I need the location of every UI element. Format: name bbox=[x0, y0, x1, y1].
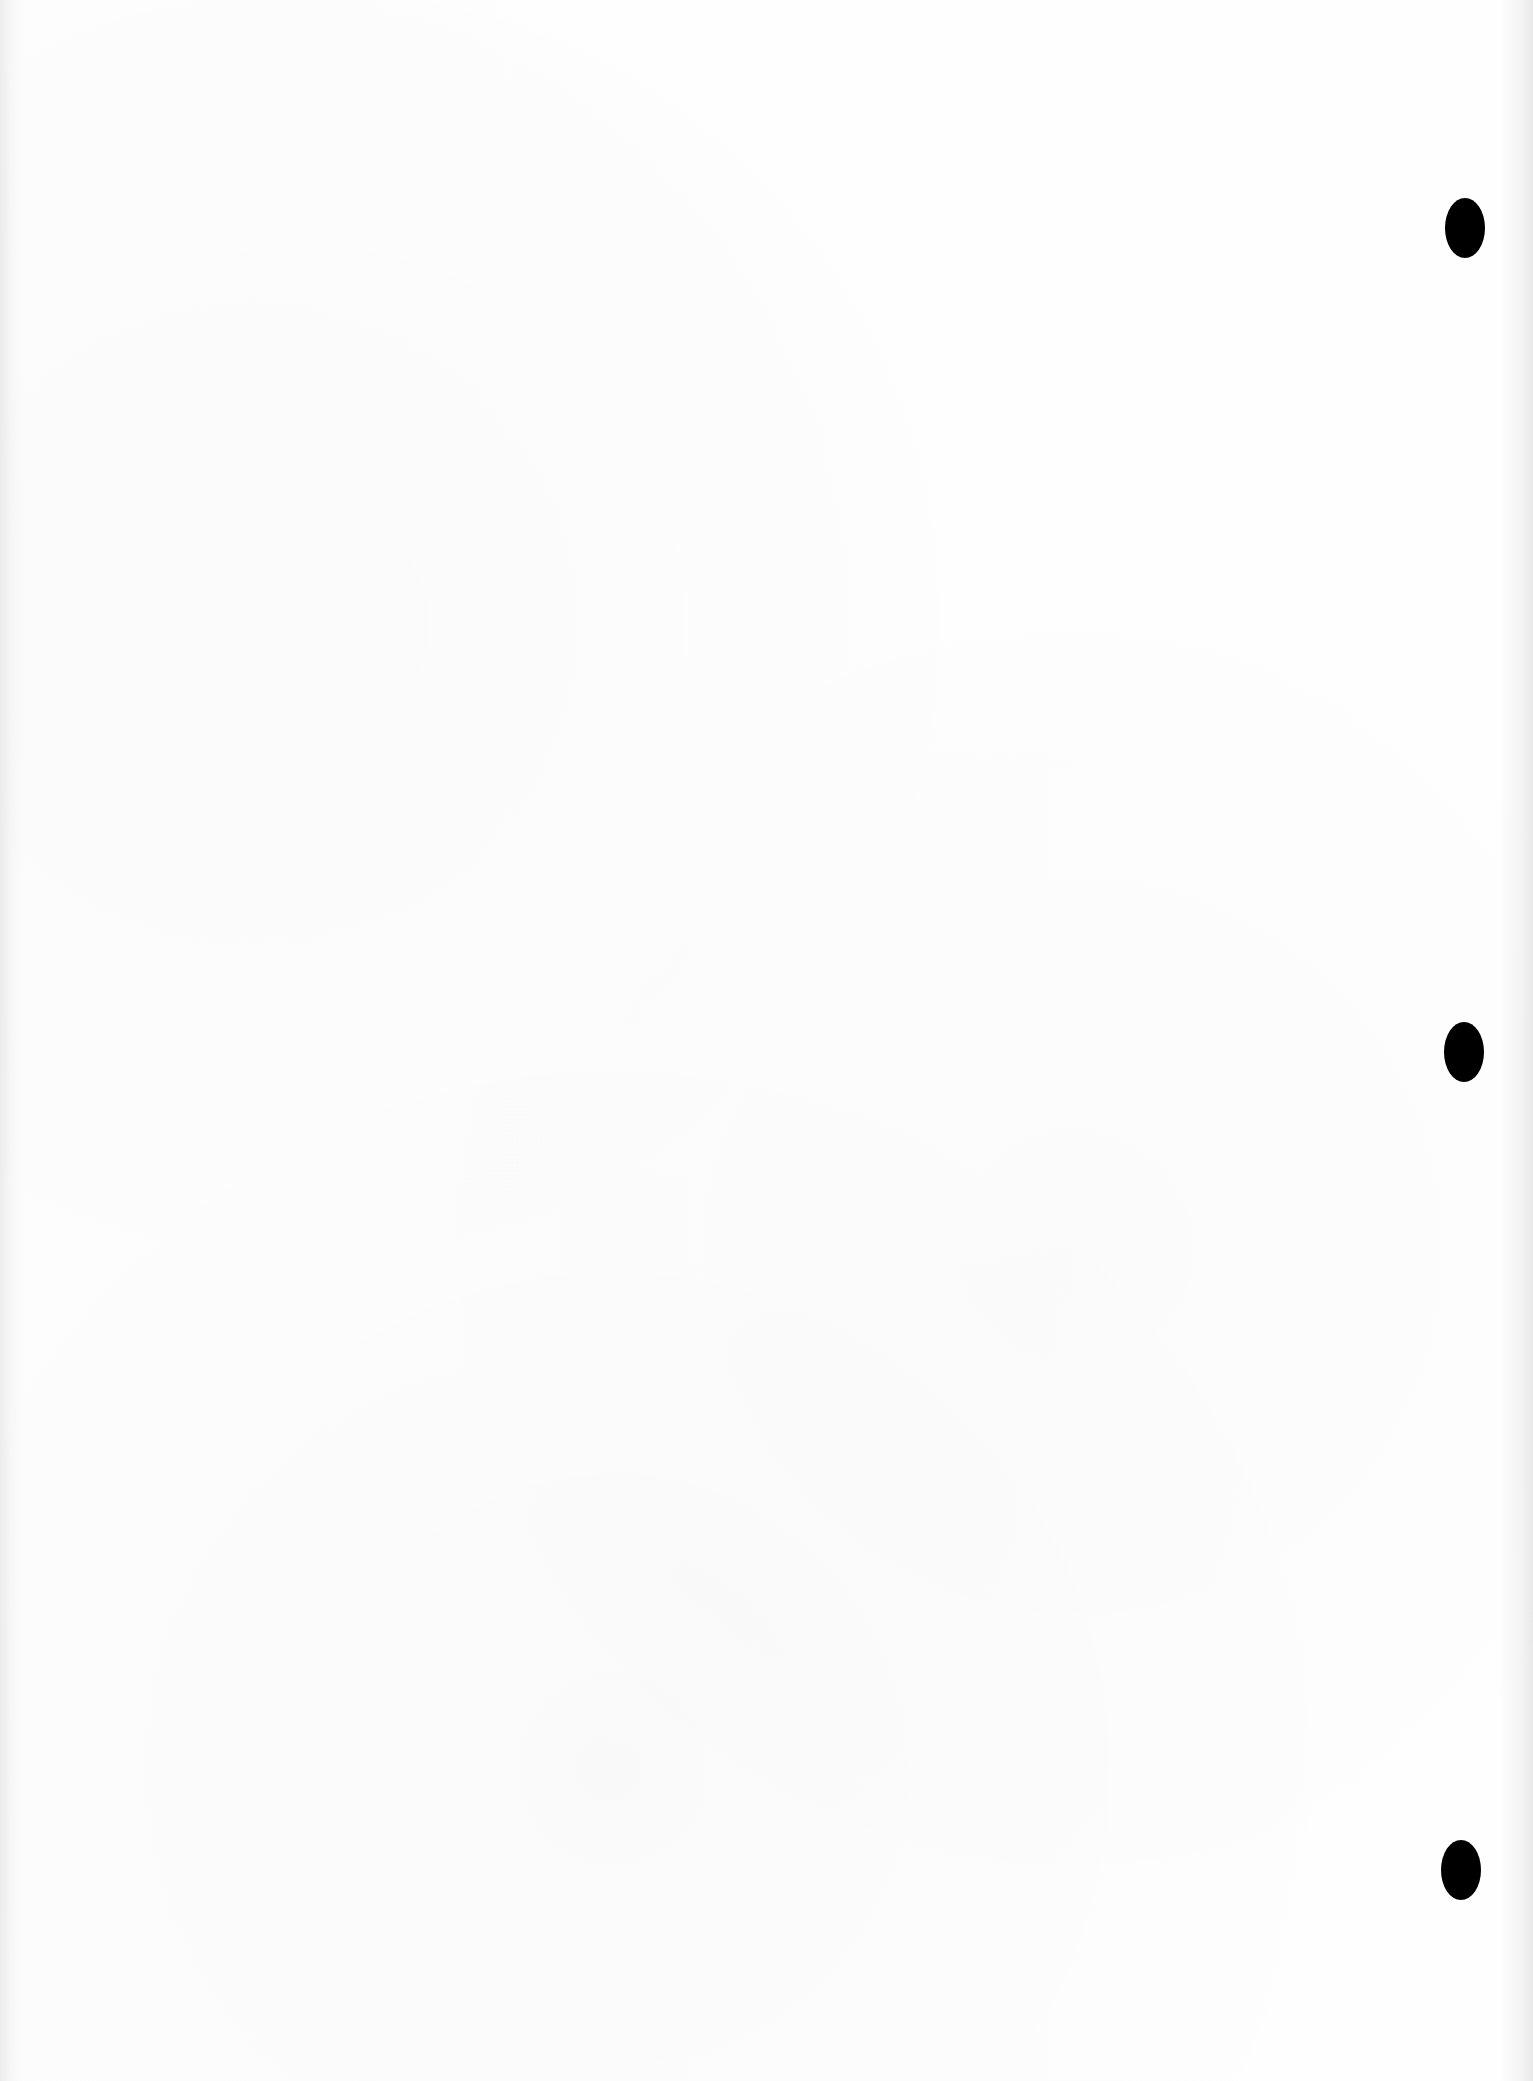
punch-hole-top bbox=[1445, 198, 1485, 258]
punch-hole-bottom bbox=[1441, 1840, 1481, 1900]
blank-paper-page bbox=[0, 0, 1533, 2081]
punch-hole-middle bbox=[1444, 1022, 1484, 1082]
